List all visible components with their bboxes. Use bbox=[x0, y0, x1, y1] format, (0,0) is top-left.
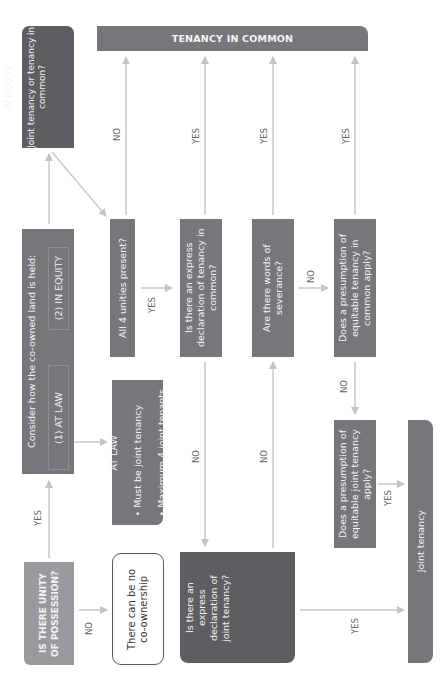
edge-label-presumption-tic-no: NO bbox=[339, 380, 349, 393]
at-law-bullet-2: • Maximum 4 joint tenants bbox=[156, 389, 168, 516]
at-law-bullet-1: • Must be joint tenancy bbox=[132, 389, 144, 516]
edge-label-possession-no: NO bbox=[84, 622, 94, 635]
unity-of-possession-question: IS THERE UNITY OF POSSESSION? bbox=[24, 562, 74, 665]
edge-label-presumption-jt-yes: YES bbox=[383, 490, 393, 506]
presumption-jt-question: Does a presumption of equitable joint te… bbox=[334, 420, 376, 548]
edge-label-severance-no: NO bbox=[306, 270, 316, 283]
express-tic-question: Is there an express declaration of tenan… bbox=[180, 219, 222, 357]
option-at-law: (1) AT LAW bbox=[48, 365, 69, 470]
option-in-equity: (2) IN EQUITY bbox=[48, 247, 69, 330]
edge-label-express-jt-no: NO bbox=[259, 450, 269, 463]
at-law-box: AT LAW • Must be joint tenancy • Maximum… bbox=[112, 380, 163, 525]
in-equity-box: IN EQUITY Joint tenancy or tenancy in co… bbox=[22, 26, 74, 148]
edge-label-express-tic-no: NO bbox=[191, 450, 201, 463]
at-law-title: AT LAW bbox=[108, 389, 120, 516]
edge-label-severance-yes: YES bbox=[259, 128, 269, 144]
express-jt-question: Is there an express declaration of joint… bbox=[180, 552, 295, 663]
edge-label-unities-no: NO bbox=[112, 128, 122, 141]
joint-tenancy-result: Joint tenancy bbox=[408, 420, 433, 663]
presumption-tic-question: Does a presumption of equitable tenancy … bbox=[334, 219, 376, 357]
tenancy-in-common-label: TENANCY IN COMMON bbox=[172, 33, 294, 44]
consider-title: Consider how the co-owned land is held: bbox=[26, 229, 38, 474]
consider-holding-box: Consider how the co-owned land is held: … bbox=[22, 229, 74, 474]
severance-question: Are there words of severance? bbox=[252, 219, 294, 357]
flowchart: IN EQUITY Joint tenancy or tenancy in co… bbox=[0, 0, 445, 698]
no-coownership-result: There can be no co-ownership bbox=[112, 553, 164, 665]
edge-label-presumption-tic-yes: YES bbox=[341, 128, 351, 144]
four-unities-question: All 4 unities present? bbox=[110, 219, 135, 357]
edge-label-unities-yes: YES bbox=[147, 297, 157, 313]
edge-label-express-jt-yes: YES bbox=[350, 618, 360, 634]
in-equity-title: IN EQUITY bbox=[4, 64, 14, 109]
in-equity-question: Joint tenancy or tenancy in common? bbox=[26, 26, 104, 148]
edge-label-express-tic-yes: YES bbox=[191, 128, 201, 144]
edge-label-possession-yes: YES bbox=[33, 510, 43, 526]
tenancy-in-common-result: TENANCY IN COMMON bbox=[97, 26, 368, 51]
